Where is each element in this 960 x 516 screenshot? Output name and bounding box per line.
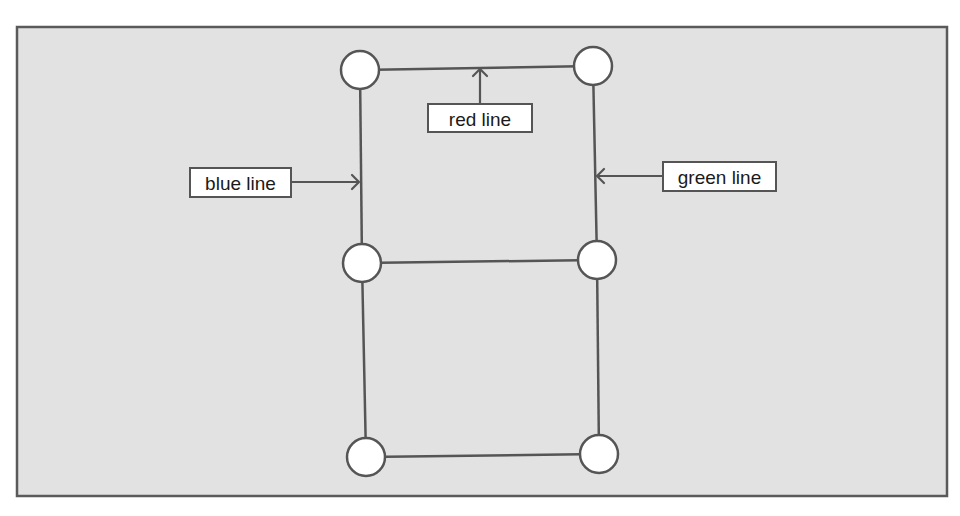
callout-blue-label: blue line — [205, 173, 276, 194]
node-middle-right[interactable] — [578, 241, 616, 279]
node-top-right[interactable] — [574, 47, 612, 85]
diagram-canvas: red lineblue linegreen line — [0, 0, 960, 516]
node-middle-left[interactable] — [343, 244, 381, 282]
callout-red-label: red line — [449, 109, 511, 130]
node-top-left[interactable] — [341, 51, 379, 89]
node-bottom-right[interactable] — [580, 435, 618, 473]
callout-green-label: green line — [678, 167, 761, 188]
node-bottom-left[interactable] — [347, 438, 385, 476]
